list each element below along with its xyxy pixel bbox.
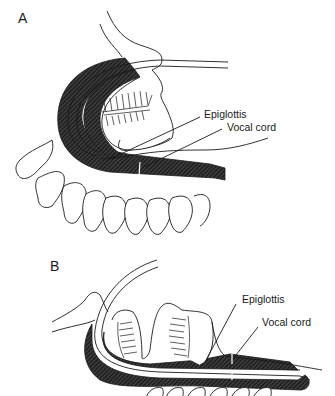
- panel-a: A Epiglottis Vocal cord: [0, 0, 335, 240]
- label-epiglottis-b: Epiglottis: [242, 293, 285, 305]
- panel-letter-a: A: [18, 10, 27, 26]
- panel-letter-b: B: [50, 258, 59, 274]
- panel-a-illustration: [0, 0, 335, 240]
- label-vocal-cord-b: Vocal cord: [262, 316, 311, 328]
- panel-b: B Epiglottis Vocal cord: [0, 240, 335, 396]
- label-epiglottis-a: Epiglottis: [204, 108, 247, 120]
- label-vocal-cord-a: Vocal cord: [227, 121, 276, 133]
